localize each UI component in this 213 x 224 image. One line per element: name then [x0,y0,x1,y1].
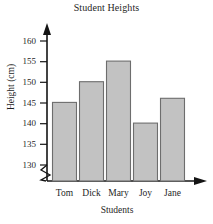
bar-mary [107,61,131,181]
x-axis-title: Students [42,205,192,215]
bar-jane [161,98,185,181]
y-tick-label-135: 135 [23,140,37,149]
x-tick-label-jane: Jane [156,188,189,198]
bar-tom [53,102,77,181]
y-tick-label-150: 150 [23,78,37,87]
y-axis-arrow-icon [43,23,51,35]
y-tick-label-155: 155 [23,57,37,66]
bar-dick [80,82,104,181]
y-tick-label-160: 160 [23,37,37,46]
y-tick-label-140: 140 [23,119,37,128]
y-tick-label-130: 130 [23,161,37,170]
y-tick-label-145: 145 [23,99,37,108]
axis-break-icon [41,165,50,181]
bar-chart: Student Heights 160 155 150 145 140 135 … [0,0,213,224]
y-axis-title: Height (cm) [6,42,16,132]
x-axis-arrow-icon [194,177,207,185]
bar-joy [134,123,158,181]
